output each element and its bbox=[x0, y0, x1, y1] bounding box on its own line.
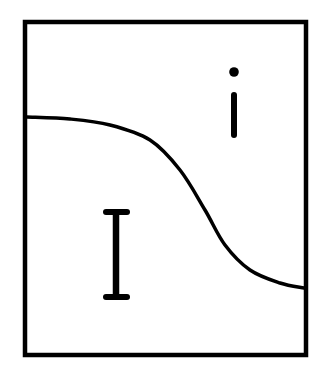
diagram-frame bbox=[25, 22, 306, 355]
region-label-upper-right bbox=[229, 67, 239, 135]
diagram-canvas bbox=[0, 0, 324, 377]
region-label-lower-left bbox=[106, 212, 127, 297]
lowercase-i-dot bbox=[229, 67, 239, 77]
boundary-curve bbox=[27, 117, 304, 288]
